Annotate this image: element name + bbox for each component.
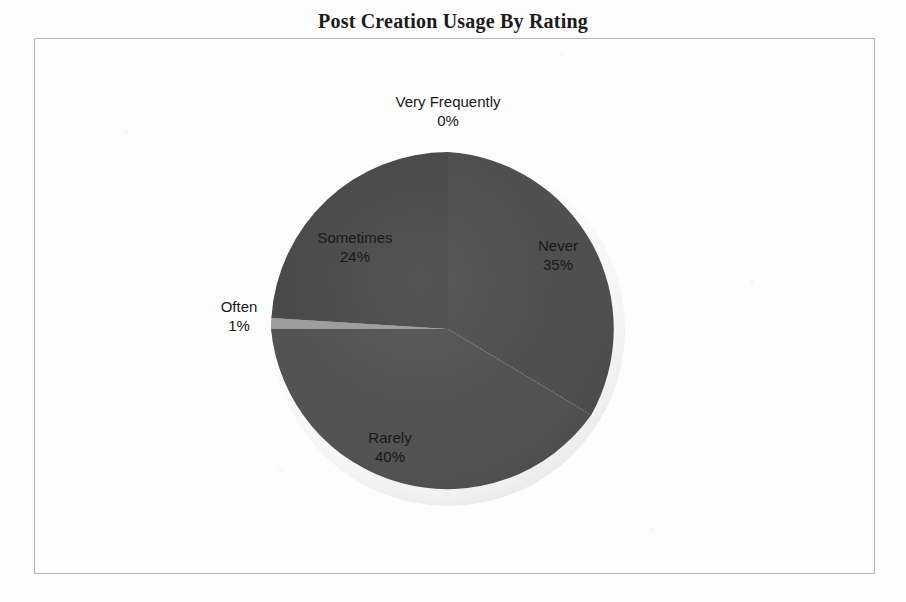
pie-chart-page: Post Creation Usage By Rating <box>0 0 906 602</box>
pie-chart-graphic <box>34 38 875 574</box>
pie-plot-area <box>34 38 875 574</box>
pie-shading-overlay <box>271 152 625 506</box>
chart-title: Post Creation Usage By Rating <box>0 10 906 33</box>
